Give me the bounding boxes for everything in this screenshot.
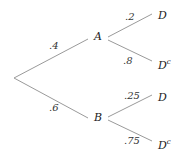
node-B: B bbox=[94, 112, 102, 124]
leaf-A-Dc: Dc bbox=[158, 56, 171, 72]
prob-B-Dc: .75 bbox=[124, 135, 140, 147]
leaf-label: D bbox=[158, 9, 167, 22]
leaf-sup-complement: c bbox=[167, 58, 171, 66]
leaf-B-Dc: Dc bbox=[158, 136, 171, 152]
leaf-label: D bbox=[158, 91, 167, 104]
prob-A-Dc: .8 bbox=[123, 55, 133, 67]
prob-B: .6 bbox=[49, 102, 59, 114]
leaf-sup-complement: c bbox=[167, 138, 171, 146]
leaf-label: D bbox=[158, 139, 167, 152]
leaf-B-D: D bbox=[158, 88, 167, 104]
leaf-A-D: D bbox=[158, 6, 167, 22]
node-A: A bbox=[94, 31, 102, 43]
leaf-label: D bbox=[158, 59, 167, 72]
tree-branches bbox=[0, 0, 181, 158]
prob-B-D: .25 bbox=[124, 90, 140, 102]
prob-A-D: .2 bbox=[125, 11, 135, 23]
prob-A: .4 bbox=[49, 40, 59, 52]
